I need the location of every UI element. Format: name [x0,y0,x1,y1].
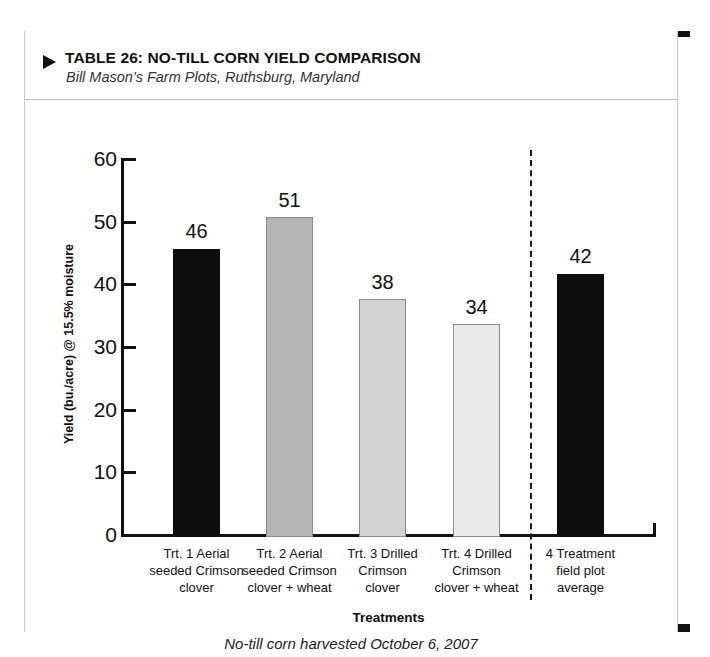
page-subtitle: Bill Mason's Farm Plots, Ruthsburg, Mary… [66,69,360,85]
chart-page: TABLE 26: NO-TILL CORN YIELD COMPARISON … [0,0,710,657]
bar-value-label: 51 [267,189,312,212]
category-label-line: Crimson [419,562,535,579]
x-axis-title: Treatments [121,610,656,625]
chart-caption: No-till corn harvested October 6, 2007 [25,635,677,652]
bar-value-label: 34 [454,296,499,319]
plot-area: Yield (bu./acre) @ 15.5% moisture 605040… [25,100,677,632]
bar: 42 [557,274,604,537]
triangle-right-icon [43,55,56,69]
chart-header: TABLE 26: NO-TILL CORN YIELD COMPARISON … [25,31,677,100]
bar-value-label: 46 [173,220,220,243]
category-label: 4 Treatmentfield plotaverage [523,545,639,596]
bar: 38 [359,299,406,537]
category-label-line: clover + wheat [419,579,535,596]
bar-value-label: 38 [360,271,405,294]
bar: 34 [453,324,500,537]
bar: 46 [173,249,220,537]
category-label-line: average [523,579,639,596]
category-label-line: field plot [523,562,639,579]
page-title: TABLE 26: NO-TILL CORN YIELD COMPARISON [65,49,421,67]
category-label: Trt. 4 DrilledCrimsonclover + wheat [419,545,535,596]
bar-value-label: 42 [557,245,604,268]
category-label-line: Trt. 4 Drilled [419,545,535,562]
category-label-line: 4 Treatment [523,545,639,562]
chart-card: TABLE 26: NO-TILL CORN YIELD COMPARISON … [24,31,678,632]
bar: 51 [266,217,313,537]
